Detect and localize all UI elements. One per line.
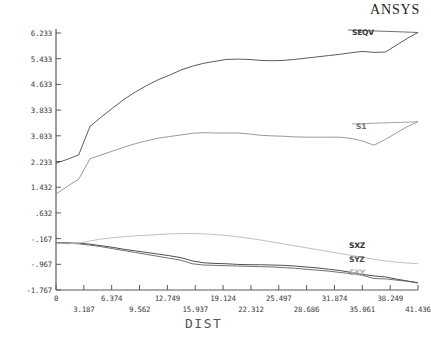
axes	[56, 29, 418, 290]
x-axis-tick-label: 9.562	[129, 305, 150, 314]
y-axis-tick-label: 2.233	[2, 157, 52, 166]
y-axis-tick-labels: -1.767-.967-.167.6321.4322.2333.0333.833…	[0, 0, 52, 341]
series-label-seqv: SEQV	[352, 28, 374, 37]
series-label-sxz: SXZ	[349, 241, 365, 250]
x-axis-tick-label: 28.686	[294, 305, 320, 314]
x-axis-tick-label: 41.436	[405, 305, 431, 314]
x-axis-tick-label: 35.061	[350, 305, 376, 314]
x-axis-tick-label: 31.874	[322, 294, 348, 303]
y-axis-tick-label: 1.432	[2, 183, 52, 192]
series-line-s1	[56, 122, 418, 194]
y-axis-tick-label: 4.633	[2, 80, 52, 89]
y-axis-tick-label: -1.767	[2, 286, 52, 295]
y-axis-tick-label: -.967	[2, 260, 52, 269]
y-axis-tick-label: 5.433	[2, 54, 52, 63]
x-axis-tick-label: 19.124	[210, 294, 236, 303]
y-axis-tick-label: 3.833	[2, 106, 52, 115]
x-axis-tick-label: 38.249	[377, 294, 403, 303]
y-axis-tick-label: .632	[2, 208, 52, 217]
y-axis-tick-label: 3.033	[2, 131, 52, 140]
series-label-sxy: SXY	[349, 268, 365, 277]
y-axis-tick-label: -.167	[2, 234, 52, 243]
page-title: ANSYS	[370, 2, 420, 18]
x-axis-tick-label: 6.374	[101, 294, 122, 303]
x-axis-tick-label: 22.312	[238, 305, 264, 314]
x-axis-tick-label: 15.937	[182, 305, 208, 314]
y-axis-tick-label: 6.233	[2, 29, 52, 38]
series-line-seqv	[56, 32, 418, 163]
x-axis-tick-label: 25.497	[266, 294, 292, 303]
series-label-s1: S1	[356, 122, 366, 131]
x-axis-tick-label: 3.187	[73, 305, 94, 314]
series-label-syz: SYZ	[349, 255, 365, 264]
x-axis-tick-label: 0	[54, 294, 58, 303]
x-axis-tick-label: 12.749	[155, 294, 181, 303]
x-axis-title: DIST	[185, 316, 222, 331]
